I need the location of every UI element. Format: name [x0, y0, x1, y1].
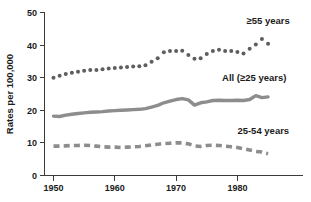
- data-point: [248, 47, 252, 51]
- x-tick-label-1970: 1970: [166, 183, 186, 193]
- data-point: [76, 70, 80, 74]
- data-point: [211, 49, 215, 53]
- x-axis-ticks: [54, 176, 238, 181]
- data-point: [94, 68, 98, 72]
- y-axis-tick-labels: 50 40 30 20 10 0: [27, 8, 37, 181]
- x-tick-label-1960: 1960: [105, 183, 125, 193]
- series-all-25-plus: [54, 96, 269, 117]
- x-tick-label-1950: 1950: [43, 183, 63, 193]
- chart-container: 50 40 30 20 10 0 Rates per 100,000 1950 …: [0, 0, 311, 202]
- data-point: [70, 71, 74, 75]
- data-point: [131, 65, 135, 69]
- y-tick-label-50: 50: [27, 8, 37, 18]
- data-point: [205, 52, 209, 56]
- y-tick-label-10: 10: [27, 138, 37, 148]
- data-point: [125, 65, 129, 69]
- x-axis: 1950 1960 1970 1980: [43, 176, 303, 194]
- data-point: [150, 60, 154, 64]
- data-point: [64, 72, 68, 76]
- x-tick-label-1980: 1980: [227, 183, 247, 193]
- series-label-all-25-plus: All (≥25 years): [222, 72, 286, 83]
- data-point: [162, 50, 166, 54]
- data-point: [137, 64, 141, 68]
- data-point: [119, 66, 123, 70]
- data-point: [174, 49, 178, 53]
- data-point: [186, 53, 190, 57]
- line-chart: 50 40 30 20 10 0 Rates per 100,000 1950 …: [0, 0, 311, 202]
- data-point: [180, 49, 184, 53]
- data-point: [143, 63, 147, 67]
- data-point: [58, 74, 62, 78]
- series-label-55-plus: ≥55 years: [247, 15, 290, 26]
- data-point: [101, 67, 105, 71]
- data-point: [260, 37, 264, 41]
- y-axis: 50 40 30 20 10 0 Rates per 100,000: [4, 8, 45, 181]
- data-point: [113, 66, 117, 70]
- y-tick-label-30: 30: [27, 73, 37, 83]
- data-point: [266, 42, 270, 46]
- data-point: [82, 69, 86, 73]
- data-point: [235, 50, 239, 54]
- series-25-54: [54, 143, 269, 154]
- data-point: [217, 48, 221, 52]
- y-tick-label-0: 0: [32, 171, 37, 181]
- data-point: [192, 57, 196, 61]
- series-annotations: ≥55 years All (≥25 years) 25-54 years: [222, 15, 290, 137]
- y-axis-ticks: [40, 13, 45, 176]
- y-tick-label-40: 40: [27, 41, 37, 51]
- data-point: [254, 42, 258, 46]
- data-point: [242, 52, 246, 56]
- data-point: [88, 68, 92, 72]
- data-point: [168, 49, 172, 53]
- y-tick-label-20: 20: [27, 106, 37, 116]
- y-axis-title: Rates per 100,000: [4, 54, 15, 134]
- data-point: [52, 76, 56, 80]
- data-point: [156, 56, 160, 60]
- series-label-25-54: 25-54 years: [237, 125, 289, 136]
- data-point: [229, 49, 233, 53]
- data-point: [223, 49, 227, 53]
- x-axis-tick-labels: 1950 1960 1970 1980: [43, 183, 247, 193]
- data-point: [107, 67, 111, 71]
- data-point: [199, 56, 203, 60]
